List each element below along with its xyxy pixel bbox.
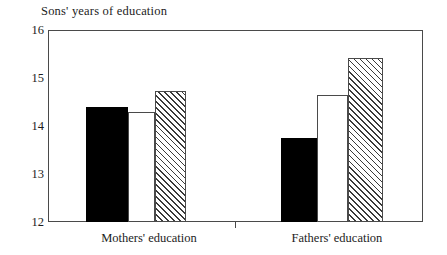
x-axis-label-mothers: Mothers' education xyxy=(74,231,224,246)
y-tick-label-14: 14 xyxy=(22,120,44,133)
y-tick-label-16: 16 xyxy=(22,24,44,37)
y-tick-label-12: 12 xyxy=(22,216,44,229)
chart-title: Sons' years of education xyxy=(41,4,167,19)
y-tick-label-15: 15 xyxy=(22,72,44,85)
x-axis-label-fathers: Fathers' education xyxy=(262,231,412,246)
bar-mothers-series-2 xyxy=(128,112,155,222)
bar-chart-figure: Sons' years of education 16 15 14 13 12 … xyxy=(0,0,447,255)
bar-fathers-series-1 xyxy=(281,138,317,222)
y-axis: 16 15 14 13 12 xyxy=(18,0,44,255)
bar-fathers-series-2 xyxy=(317,95,348,222)
bar-mothers-series-1 xyxy=(86,107,128,222)
bar-mothers-series-3 xyxy=(155,91,186,222)
bar-fathers-series-3 xyxy=(348,58,383,222)
y-tick-label-13: 13 xyxy=(22,168,44,181)
bars-layer xyxy=(48,30,423,222)
x-axis-group-separator-tick xyxy=(235,222,236,228)
